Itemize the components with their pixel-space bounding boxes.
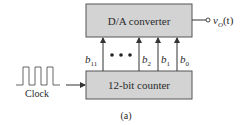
dac-block: D/A converter: [86, 4, 192, 37]
figure-caption: (a): [120, 110, 131, 122]
dac-counter-diagram: D/A converter vO(t) 12-bit counter b11 b…: [0, 0, 250, 125]
clock-waveform-icon: Clock: [16, 67, 60, 99]
counter-label: 12-bit counter: [108, 79, 170, 91]
bit-labels: b11 b2 b1 b0: [85, 53, 190, 68]
dac-label: D/A converter: [108, 15, 171, 27]
ellipsis-dots: [110, 53, 132, 57]
output-terminal: vO(t): [192, 14, 234, 29]
bit-label-b11: b11: [85, 53, 98, 68]
bit-label-b2: b2: [142, 53, 152, 68]
bit-label-b0: b0: [180, 53, 190, 68]
clock-label: Clock: [25, 88, 49, 99]
counter-block: 12-bit counter: [86, 71, 192, 99]
terminal-icon: [206, 18, 210, 22]
output-label: vO(t): [213, 14, 234, 29]
bit-label-b1: b1: [161, 53, 171, 68]
diagram-canvas: D/A converter vO(t) 12-bit counter b11 b…: [0, 0, 250, 125]
